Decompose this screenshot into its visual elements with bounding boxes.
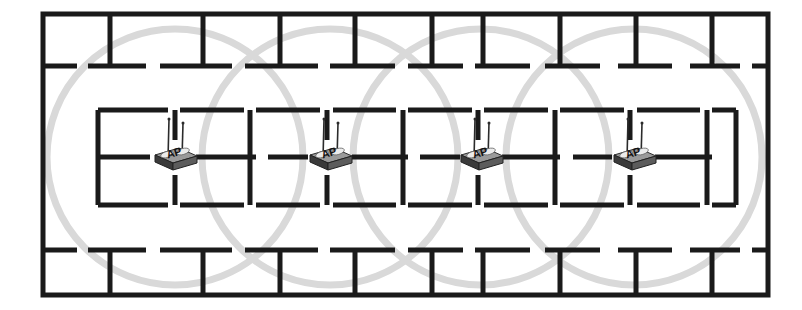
wall-bottom-horizontal-11 — [752, 248, 768, 253]
wall-mid-upper-horizontal-4 — [333, 108, 396, 113]
ap-4-antenna-tip-2 — [641, 122, 644, 125]
wall-bottom-horizontal-1 — [43, 248, 77, 253]
wall-mid-center-horizontal-2 — [196, 155, 256, 160]
wall-top-vertical-7 — [558, 14, 563, 66]
wall-mid-lower-horizontal-7 — [560, 203, 624, 208]
wall-mid-vertical-14 — [734, 110, 739, 205]
wall-top-vertical-9 — [710, 14, 715, 66]
wall-mid-vertical-4 — [248, 110, 253, 205]
wall-bottom-vertical-1 — [108, 250, 113, 295]
wall-mid-vertical-1 — [96, 110, 101, 205]
wall-mid-vertical-9 — [476, 175, 481, 205]
wall-mid-center-horizontal-3 — [268, 155, 308, 160]
floor-plan-svg: APAPAPAP — [0, 0, 802, 310]
wall-mid-vertical-5 — [325, 110, 330, 140]
ap-3-antenna-tip-2 — [488, 122, 491, 125]
wall-mid-lower-horizontal-3 — [256, 203, 320, 208]
wall-bottom-vertical-2 — [201, 250, 206, 295]
wall-mid-center-horizontal-7 — [573, 155, 612, 160]
wall-mid-vertical-6 — [325, 175, 330, 205]
wall-mid-lower-horizontal-4 — [333, 203, 396, 208]
wall-mid-lower-horizontal-1 — [98, 203, 168, 208]
wall-bottom-vertical-9 — [710, 250, 715, 295]
wall-bottom-horizontal-2 — [88, 248, 146, 253]
ap-2-antenna-tip-1 — [323, 118, 326, 121]
wall-bottom-vertical-8 — [634, 250, 639, 295]
wall-bottom-vertical-4 — [353, 250, 358, 295]
wall-mid-lower-horizontal-8 — [637, 203, 700, 208]
wall-top-vertical-4 — [353, 14, 358, 66]
wall-bottom-vertical-6 — [481, 250, 486, 295]
wall-mid-center-horizontal-1 — [98, 155, 150, 160]
wall-mid-lower-horizontal-5 — [408, 203, 472, 208]
wall-mid-upper-horizontal-3 — [256, 108, 320, 113]
wall-mid-vertical-10 — [553, 110, 558, 205]
wall-mid-lower-horizontal-9 — [712, 203, 736, 208]
ap-2-antenna-tip-2 — [337, 122, 340, 125]
wall-top-horizontal-4 — [245, 64, 318, 69]
wall-top-horizontal-1 — [43, 64, 77, 69]
floor-plan-diagram: APAPAPAP — [0, 0, 802, 310]
wall-mid-vertical-12 — [628, 175, 633, 205]
wall-bottom-horizontal-8 — [545, 248, 600, 253]
wall-top-horizontal-6 — [408, 64, 463, 69]
wall-mid-center-horizontal-8 — [655, 155, 712, 160]
wall-top-horizontal-5 — [330, 64, 395, 69]
ap-1-antenna-tip-2 — [182, 122, 185, 125]
wall-mid-vertical-2 — [173, 110, 178, 140]
wall-bottom-horizontal-9 — [618, 248, 672, 253]
wall-mid-upper-horizontal-7 — [560, 108, 624, 113]
wall-bottom-vertical-7 — [558, 250, 563, 295]
wall-top-vertical-5 — [430, 14, 435, 66]
wall-top-vertical-2 — [201, 14, 206, 66]
ap-4-antenna-tip-1 — [627, 118, 630, 121]
wall-bottom-horizontal-6 — [408, 248, 463, 253]
wall-mid-lower-horizontal-2 — [180, 203, 244, 208]
wall-top-vertical-6 — [481, 14, 486, 66]
wall-top-horizontal-11 — [752, 64, 768, 69]
wall-top-horizontal-8 — [545, 64, 600, 69]
wall-top-vertical-3 — [278, 14, 283, 66]
wall-top-horizontal-3 — [160, 64, 232, 69]
wall-mid-vertical-8 — [476, 110, 481, 140]
ap-1-antenna-tip-1 — [168, 118, 171, 121]
wall-mid-upper-horizontal-6 — [484, 108, 548, 113]
wall-mid-lower-horizontal-6 — [484, 203, 548, 208]
wall-top-vertical-8 — [634, 14, 639, 66]
wall-top-horizontal-9 — [618, 64, 672, 69]
wall-top-horizontal-2 — [88, 64, 146, 69]
wall-mid-upper-horizontal-8 — [637, 108, 700, 113]
wall-mid-upper-horizontal-5 — [408, 108, 472, 113]
wall-bottom-horizontal-10 — [690, 248, 740, 253]
wall-top-horizontal-7 — [475, 64, 530, 69]
wall-mid-center-horizontal-5 — [420, 155, 460, 160]
wall-mid-upper-horizontal-9 — [712, 108, 736, 113]
wall-mid-center-horizontal-4 — [352, 155, 408, 160]
wall-bottom-vertical-5 — [430, 250, 435, 295]
wall-mid-center-horizontal-6 — [502, 155, 560, 160]
wall-mid-vertical-7 — [401, 110, 406, 205]
wall-top-vertical-1 — [108, 14, 113, 66]
wall-mid-upper-horizontal-2 — [180, 108, 244, 113]
ap-3-antenna-tip-1 — [474, 118, 477, 121]
wall-mid-upper-horizontal-1 — [98, 108, 168, 113]
wall-bottom-vertical-3 — [278, 250, 283, 295]
wall-mid-vertical-3 — [173, 175, 178, 205]
wall-mid-vertical-13 — [705, 110, 710, 205]
wall-bottom-horizontal-5 — [330, 248, 395, 253]
wall-top-horizontal-10 — [690, 64, 740, 69]
wall-bottom-horizontal-3 — [160, 248, 232, 253]
